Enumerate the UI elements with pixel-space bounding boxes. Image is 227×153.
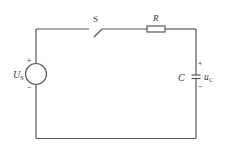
resistor: R <box>147 13 165 32</box>
switch-label: S <box>93 14 98 24</box>
capacitor-voltage-subscript: C <box>209 77 213 83</box>
voltage-source: + − U S <box>13 57 47 91</box>
switch: S <box>93 14 102 37</box>
switch-blade-icon <box>94 29 102 37</box>
capacitor-minus-sign: − <box>198 83 202 90</box>
source-plus-sign: + <box>27 57 31 64</box>
voltage-source-icon <box>26 64 47 85</box>
resistor-label: R <box>152 13 159 23</box>
rc-circuit-diagram: + − U S S R C + − u C <box>0 0 227 153</box>
capacitor-label: C <box>178 72 185 83</box>
source-label-subscript: S <box>20 74 24 81</box>
source-minus-sign: − <box>27 84 31 91</box>
capacitor-plus-sign: + <box>198 60 202 67</box>
wires <box>36 29 196 139</box>
resistor-icon <box>147 26 165 32</box>
